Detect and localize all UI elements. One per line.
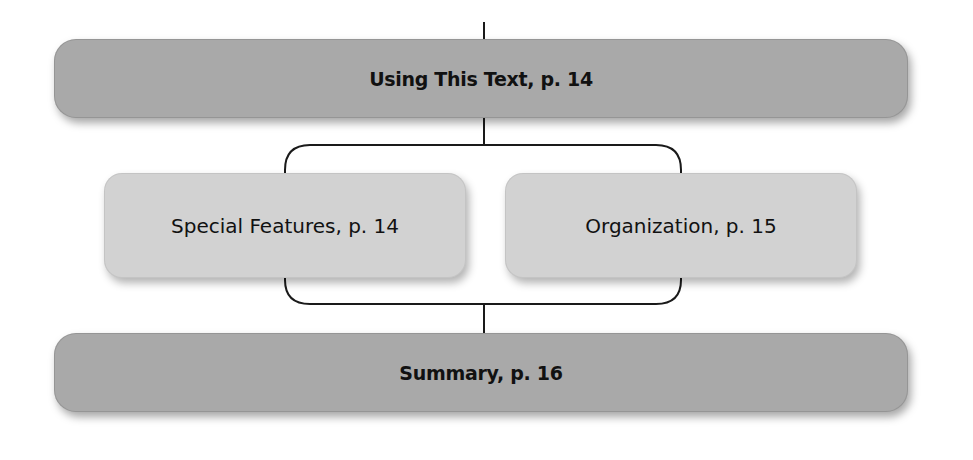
subtopic-box-special-features: Special Features, p. 14: [104, 173, 466, 278]
topic-label: Using This Text, p. 14: [369, 68, 593, 90]
subtopic-box-organization: Organization, p. 15: [505, 173, 857, 278]
topic-box-summary: Summary, p. 16: [54, 333, 908, 412]
connector-bottom-bracket: [285, 277, 681, 304]
subtopic-label: Organization, p. 15: [585, 214, 776, 238]
summary-label: Summary, p. 16: [399, 362, 562, 384]
subtopic-label: Special Features, p. 14: [171, 214, 399, 238]
topic-box-using-this-text: Using This Text, p. 14: [54, 39, 908, 118]
connector-top-bracket: [285, 145, 681, 174]
